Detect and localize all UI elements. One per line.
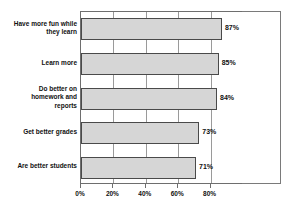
bar[interactable] — [81, 18, 222, 40]
category-label: Get better grades — [1, 128, 77, 137]
bar-value-label: 71% — [199, 163, 213, 170]
category-label: Are better students — [1, 162, 77, 171]
category-axis-labels: Have more fun whilethey learnLearn moreD… — [0, 0, 77, 206]
category-label: Learn more — [1, 59, 77, 68]
bar[interactable] — [81, 88, 217, 110]
bar-band — [81, 18, 243, 40]
bar[interactable] — [81, 157, 196, 179]
bar[interactable] — [81, 122, 199, 144]
bar-value-label: 73% — [202, 128, 216, 135]
x-axis-tick-label: 60% — [171, 191, 184, 198]
x-axis-tick-mark — [177, 184, 178, 188]
x-axis-tick-mark — [80, 184, 81, 188]
bar-chart: Have more fun whilethey learnLearn moreD… — [0, 0, 298, 206]
plot-area — [80, 11, 242, 184]
x-axis-tick-label: 20% — [106, 191, 119, 198]
bar-value-label: 87% — [225, 24, 239, 31]
bar-value-label: 84% — [220, 94, 234, 101]
bar-band — [81, 53, 243, 75]
category-label: Do better onhomework andreports — [1, 85, 77, 111]
category-label: Have more fun whilethey learn — [1, 20, 77, 37]
x-axis-tick-label: 80% — [203, 191, 216, 198]
x-axis-tick-label: 0% — [75, 191, 84, 198]
bar-band — [81, 157, 243, 179]
bar-band — [81, 122, 243, 144]
bar[interactable] — [81, 53, 219, 75]
bar-value-label: 85% — [222, 59, 236, 66]
bar-band — [81, 88, 243, 110]
x-axis-tick-mark — [210, 184, 211, 188]
x-axis-tick-mark — [112, 184, 113, 188]
x-axis-tick-label: 40% — [138, 191, 151, 198]
x-axis-tick-mark — [145, 184, 146, 188]
